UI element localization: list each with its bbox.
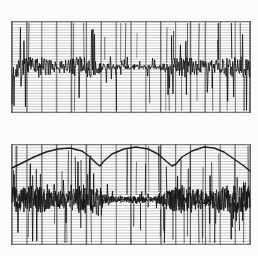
upper-trace-panel-canvas: [11, 21, 251, 113]
scan-sheet: [0, 0, 258, 256]
upper-trace-panel: [11, 21, 251, 113]
lower-trace-panel-canvas: [11, 144, 251, 245]
lower-trace-panel: [11, 144, 251, 245]
